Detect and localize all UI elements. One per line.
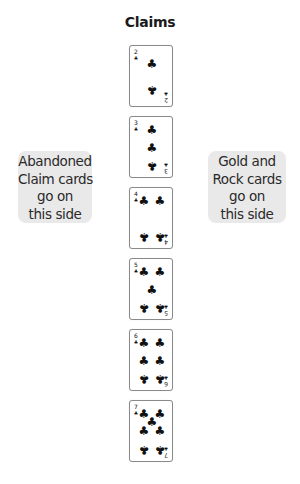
club-icon: ♣ — [138, 425, 150, 437]
club-icon: ♣ — [146, 284, 158, 296]
claim-card-7-of-clubs[interactable]: 7♣7♣♣♣♣♣♣♣♣ — [129, 400, 173, 462]
club-icon: ♣ — [154, 266, 166, 278]
club-icon: ♣ — [154, 302, 166, 314]
club-icon: ♣ — [138, 355, 150, 367]
club-icon: ♣ — [154, 373, 166, 385]
club-icon: ♣ — [138, 195, 150, 207]
claim-card-3-of-clubs[interactable]: 3♣3♣♣♣♣ — [129, 116, 173, 178]
claim-card-4-of-clubs[interactable]: 4♣4♣♣♣♣♣ — [129, 187, 173, 249]
note-line: Claim cards — [18, 171, 92, 189]
note-line: go on — [208, 188, 286, 206]
club-icon: ♣ — [154, 444, 166, 456]
card-rank: 2 — [163, 97, 169, 103]
club-icon: ♣ — [154, 231, 166, 243]
club-icon: ♣ — [146, 142, 158, 154]
club-icon: ♣ — [163, 91, 169, 97]
claim-card-2-of-clubs[interactable]: 2♣2♣♣♣ — [129, 45, 173, 107]
club-icon: ♣ — [138, 373, 150, 385]
club-icon: ♣ — [146, 160, 158, 172]
club-icon: ♣ — [138, 231, 150, 243]
abandoned-claim-note: Abandoned Claim cards go on this side — [18, 151, 92, 223]
club-icon: ♣ — [146, 124, 158, 136]
note-line: this side — [18, 206, 92, 224]
club-icon: ♣ — [133, 126, 139, 132]
club-icon: ♣ — [138, 302, 150, 314]
club-icon: ♣ — [146, 58, 158, 70]
club-icon: ♣ — [163, 162, 169, 168]
claim-card-6-of-clubs[interactable]: 6♣6♣♣♣♣♣♣♣ — [129, 329, 173, 391]
card-index: 2♣ — [163, 91, 169, 103]
club-icon: ♣ — [154, 337, 166, 349]
card-rank: 3 — [163, 168, 169, 174]
card-index: 3♣ — [163, 162, 169, 174]
club-icon: ♣ — [138, 337, 150, 349]
claim-card-5-of-clubs[interactable]: 5♣5♣♣♣♣♣♣ — [129, 258, 173, 320]
note-line: Abandoned — [18, 153, 92, 171]
note-line: Rock cards — [208, 171, 286, 189]
claims-title: Claims — [0, 14, 300, 30]
card-index: 2♣ — [133, 49, 139, 61]
club-icon: ♣ — [138, 266, 150, 278]
club-icon: ♣ — [146, 84, 158, 96]
club-icon: ♣ — [154, 425, 166, 437]
gold-rock-note: Gold and Rock cards go on this side — [208, 151, 286, 223]
card-index: 3♣ — [133, 120, 139, 132]
club-icon: ♣ — [154, 355, 166, 367]
note-line: go on — [18, 188, 92, 206]
note-line: this side — [208, 206, 286, 224]
club-icon: ♣ — [154, 195, 166, 207]
note-line: Gold and — [208, 153, 286, 171]
club-icon: ♣ — [138, 444, 150, 456]
club-icon: ♣ — [133, 55, 139, 61]
